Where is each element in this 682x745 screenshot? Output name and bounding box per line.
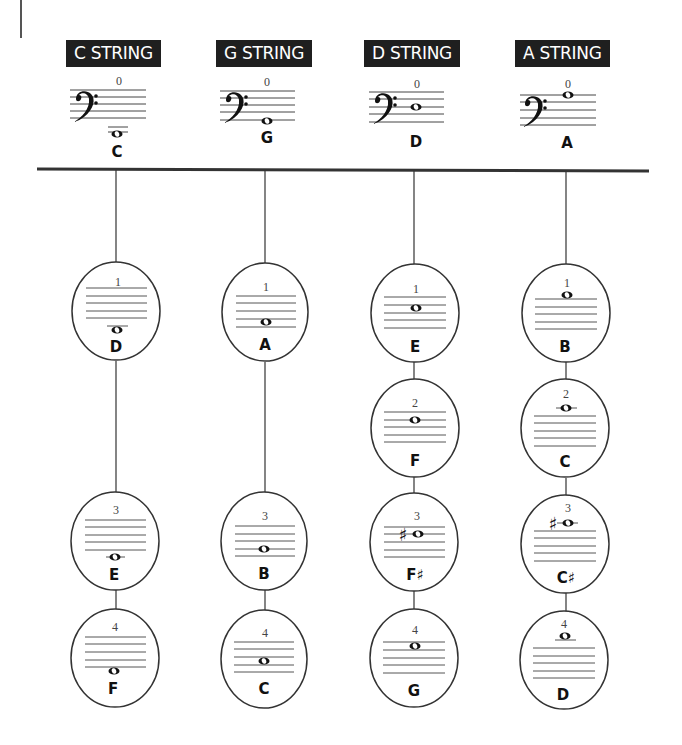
finger-circle-d-4: 4 G (370, 609, 458, 707)
note-name: F (410, 452, 420, 470)
finger-number: 1 (564, 276, 570, 290)
sharp-icon: ♯ (399, 524, 408, 545)
finger-number: 3 (414, 509, 420, 523)
string-lines (116, 170, 566, 612)
whole-note-icon (259, 545, 270, 552)
note-name: D (557, 686, 569, 704)
whole-note-icon (411, 304, 422, 311)
note-name: F (108, 680, 118, 698)
bass-clef-icon (224, 92, 248, 123)
finger-number: 2 (563, 387, 569, 401)
note-name: B (258, 565, 269, 583)
note-name: B (559, 338, 570, 356)
whole-note-icon (563, 91, 574, 98)
note-name: F♯ (406, 566, 424, 584)
sharp-icon: ♯ (549, 513, 558, 534)
bass-clef-icon (523, 96, 547, 127)
finger-circle-d-3: 3 ♯ F♯ (370, 493, 458, 591)
note-name: A (561, 134, 573, 152)
fingering-diagram: 0 C 0 G 0 D 0 (0, 0, 682, 745)
note-name: C♯ (557, 569, 575, 587)
whole-note-icon (261, 318, 272, 325)
whole-note-icon (561, 404, 572, 411)
finger-number: 0 (414, 77, 420, 91)
whole-note-icon (110, 553, 121, 560)
whole-note-icon (262, 117, 273, 124)
whole-note-icon (563, 519, 574, 526)
finger-circle-d-2: 2 F (371, 379, 459, 477)
g-string-open-staff: 0 G (220, 75, 295, 147)
finger-number: 1 (115, 275, 121, 289)
whole-note-icon (410, 642, 421, 649)
note-name: G (408, 682, 420, 700)
finger-number: 1 (413, 282, 419, 296)
finger-number: 0 (565, 77, 571, 91)
whole-note-icon (112, 130, 123, 137)
whole-note-icon (410, 416, 421, 423)
finger-number: 1 (263, 280, 269, 294)
finger-number: 0 (264, 75, 270, 89)
d-string-open-staff: 0 D (369, 77, 444, 151)
finger-circle-a-4: 4 D (520, 611, 608, 709)
note-name: E (109, 566, 119, 584)
finger-number: 4 (561, 617, 567, 631)
finger-number: 3 (262, 509, 268, 523)
bass-clef-icon (74, 91, 98, 122)
finger-circle-c-1: 1 D (72, 262, 160, 360)
whole-note-icon (562, 291, 573, 298)
note-name: C (258, 680, 269, 698)
note-name: A (259, 336, 271, 354)
bass-clef-icon (373, 93, 397, 124)
finger-number: 0 (116, 74, 122, 88)
finger-number: 2 (412, 396, 418, 410)
finger-number: 4 (412, 623, 418, 637)
note-name: E (410, 338, 420, 356)
finger-circle-c-3: 3 E (71, 492, 159, 590)
finger-number: 4 (262, 626, 268, 640)
a-string-open-staff: 0 A (520, 77, 596, 152)
finger-number: 3 (565, 501, 571, 515)
finger-number: 3 (113, 503, 119, 517)
finger-circle-c-4: 4 F (71, 609, 159, 707)
note-name: D (410, 133, 422, 151)
note-name: C (111, 143, 122, 161)
note-name: D (110, 338, 122, 356)
whole-note-icon (259, 657, 270, 664)
c-string-open-staff: 0 C (70, 74, 146, 161)
whole-note-icon (560, 632, 571, 639)
finger-circle-d-1: 1 E (371, 264, 459, 362)
whole-note-icon (112, 326, 123, 333)
finger-circle-a-2: 2 C (521, 379, 609, 477)
finger-circle-g-1: 1 A (222, 263, 308, 361)
whole-note-icon (109, 667, 120, 674)
whole-note-icon (411, 103, 422, 110)
finger-circle-g-3: 3 B (221, 492, 307, 590)
note-name: G (261, 129, 273, 147)
finger-circle-g-4: 4 C (221, 610, 307, 708)
finger-circle-a-3: 3 ♯ C♯ (521, 495, 609, 593)
finger-circle-a-1: 1 B (522, 264, 610, 362)
finger-number: 4 (112, 620, 118, 634)
nut-bar (37, 169, 649, 171)
whole-note-icon (413, 530, 424, 537)
note-name: C (559, 453, 570, 471)
